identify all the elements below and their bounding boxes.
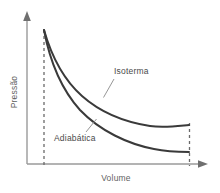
adiabatic-label: Adiabática bbox=[54, 133, 96, 143]
x-axis-title: Volume bbox=[86, 173, 146, 183]
isotherm-leader-line bbox=[104, 79, 115, 98]
y-axis-title: Pressão bbox=[9, 65, 19, 119]
isotherm-curve bbox=[44, 30, 189, 127]
isotherm-label: Isoterma bbox=[114, 66, 149, 76]
arrow-up-icon bbox=[23, 11, 31, 21]
arrow-right-icon bbox=[198, 160, 208, 168]
plot-area bbox=[0, 0, 220, 193]
pv-diagram-figure: Pressão Volume Isoterma Adiabática bbox=[0, 0, 220, 193]
